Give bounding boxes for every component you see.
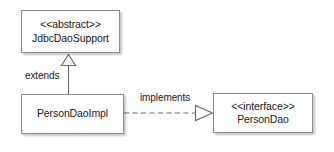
class-name-jdbcdaosupport: JdbcDaoSupport (32, 32, 109, 45)
class-box-jdbcdaosupport[interactable]: <<abstract>> JdbcDaoSupport (21, 10, 120, 53)
class-name-persondao: PersonDao (237, 113, 289, 126)
uml-class-diagram: <<abstract>> JdbcDaoSupport PersonDaoImp… (0, 0, 334, 152)
edge-label-extends: extends (25, 70, 59, 81)
edge-label-implements: implements (140, 92, 190, 103)
generalization-arrowhead-icon (62, 55, 76, 66)
class-box-persondaoimpl[interactable]: PersonDaoImpl (21, 94, 124, 134)
class-stereotype-jdbcdaosupport: <<abstract>> (40, 18, 101, 31)
realization-arrowhead-icon (196, 106, 213, 121)
class-box-persondao[interactable]: <<interface>> PersonDao (213, 93, 313, 133)
class-name-persondaoimpl: PersonDaoImpl (37, 107, 108, 120)
class-stereotype-persondao: <<interface>> (231, 100, 295, 113)
